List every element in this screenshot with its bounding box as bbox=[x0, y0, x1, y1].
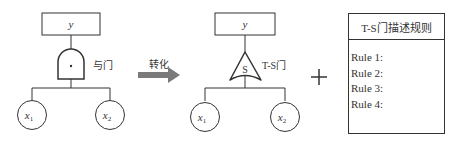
ts-gate-label: T-S门 bbox=[262, 59, 286, 71]
rule-item: Rule 4: bbox=[351, 97, 444, 113]
right-fault-tree: y S T-S门 x1 x2 bbox=[191, 13, 300, 132]
rules-list: Rule 1: Rule 2: Rule 3: Rule 4: bbox=[349, 40, 444, 112]
left-top-event-label: y bbox=[68, 18, 74, 30]
left-fault-tree: y 与门 x1 x2 bbox=[18, 13, 125, 130]
transform-arrow: 转化 bbox=[138, 58, 180, 83]
plus-icon bbox=[311, 69, 327, 85]
transform-arrow-label: 转化 bbox=[149, 58, 169, 70]
rule-item: Rule 2: bbox=[351, 66, 444, 82]
and-gate-label: 与门 bbox=[93, 59, 113, 71]
rules-box-title: T-S门描述规则 bbox=[349, 14, 444, 40]
right-top-event-label: y bbox=[242, 18, 248, 30]
rule-item: Rule 3: bbox=[351, 81, 444, 97]
ts-gate-symbol: S bbox=[242, 64, 248, 75]
and-gate-dot bbox=[70, 65, 72, 67]
and-gate-icon bbox=[58, 49, 84, 79]
ts-gate-rules-box: T-S门描述规则 Rule 1: Rule 2: Rule 3: Rule 4: bbox=[348, 13, 445, 134]
rule-item: Rule 1: bbox=[351, 50, 444, 66]
